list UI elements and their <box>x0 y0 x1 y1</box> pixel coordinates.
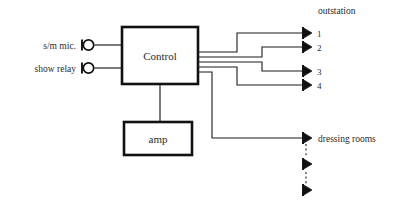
jack-sm-mic <box>82 40 94 51</box>
label-outstation-number-1: 1 <box>317 29 322 39</box>
speaker-cone-icon <box>303 42 312 53</box>
input-wires <box>95 45 122 68</box>
speaker-dressing-room-1 <box>303 132 312 144</box>
jack-circle-icon <box>83 40 93 50</box>
speaker-cone-icon <box>303 185 312 196</box>
jack-show-relay <box>82 63 94 74</box>
output-bus <box>198 33 302 138</box>
speaker-cone-icon <box>303 28 312 39</box>
label-outstation-number-4: 4 <box>317 81 322 91</box>
label-show-relay: show relay <box>35 64 77 74</box>
speaker-cone-icon <box>303 80 312 91</box>
label-outstation-number-2: 2 <box>317 43 322 53</box>
wire-bus-outstation-1 <box>198 33 302 52</box>
label-amp-block: amp <box>149 133 168 145</box>
speaker-cone-icon <box>303 66 312 77</box>
speaker-outstation-4 <box>303 79 312 91</box>
label-sm-mic: s/m mic. <box>43 41 76 51</box>
speaker-outstation-2 <box>303 41 312 53</box>
schematic-canvas: s/m mic. show relay Control amp outstati… <box>0 0 410 201</box>
speaker-cone-icon <box>303 159 312 170</box>
label-dressing-rooms-group: dressing rooms <box>318 134 376 144</box>
speaker-outstation-1 <box>303 27 312 39</box>
speaker-cone-icon <box>303 133 312 144</box>
label-outstation-group: outstation <box>318 6 356 16</box>
speaker-dressing-room-2 <box>303 158 312 170</box>
speaker-outstation-3 <box>303 65 312 77</box>
wire-bus-dressing-rooms <box>198 72 302 138</box>
label-outstation-number-3: 3 <box>317 67 322 77</box>
schematic-diagram: s/m mic. show relay Control amp outstati… <box>0 0 410 201</box>
wire-bus-outstation-4 <box>198 67 302 85</box>
jack-circle-icon <box>83 63 93 73</box>
label-control-block: Control <box>143 50 177 62</box>
speaker-dressing-room-3 <box>303 184 312 196</box>
